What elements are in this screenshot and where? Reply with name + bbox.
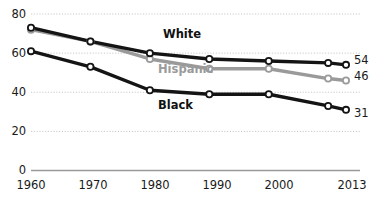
end-value-white: 54 bbox=[354, 53, 369, 67]
x-tick-label-1990: 1990 bbox=[195, 178, 239, 192]
data-point-hispanic-2000 bbox=[266, 66, 272, 72]
x-tick-label-1970: 1970 bbox=[71, 178, 115, 192]
data-point-black-2000 bbox=[266, 91, 272, 97]
x-tick-label-1960: 1960 bbox=[9, 178, 53, 192]
data-point-white-2010 bbox=[325, 60, 331, 66]
series-label-hispanic: Hispanic bbox=[158, 62, 213, 76]
y-tick-label-40: 40 bbox=[2, 85, 26, 99]
x-tick-label-2013: 2013 bbox=[330, 178, 374, 192]
data-point-black-1960 bbox=[28, 48, 34, 54]
data-point-white-1960 bbox=[28, 25, 34, 31]
end-value-hispanic: 46 bbox=[354, 69, 369, 83]
data-point-white-1970 bbox=[87, 38, 93, 44]
line-chart: 80 60 40 20 0 1960 1970 1980 1990 2000 2… bbox=[0, 0, 374, 197]
y-tick-label-20: 20 bbox=[2, 124, 26, 138]
data-point-hispanic-2013 bbox=[343, 77, 349, 83]
x-tick-label-1980: 1980 bbox=[133, 178, 177, 192]
data-point-black-2013 bbox=[343, 107, 349, 113]
y-tick-label-80: 80 bbox=[2, 7, 26, 21]
data-point-black-1970 bbox=[87, 64, 93, 70]
data-point-white-2013 bbox=[343, 62, 349, 68]
y-tick-label-60: 60 bbox=[2, 46, 26, 60]
series-label-black: Black bbox=[158, 98, 193, 112]
data-point-hispanic-2010 bbox=[325, 75, 331, 81]
end-value-black: 31 bbox=[354, 106, 369, 120]
data-point-black-1980 bbox=[147, 87, 153, 93]
y-tick-label-0: 0 bbox=[2, 163, 26, 177]
series-label-white: White bbox=[163, 27, 201, 41]
data-point-white-2000 bbox=[266, 58, 272, 64]
data-point-black-1990 bbox=[206, 91, 212, 97]
data-point-black-2010 bbox=[325, 103, 331, 109]
data-point-white-1980 bbox=[147, 50, 153, 56]
x-tick-label-2000: 2000 bbox=[257, 178, 301, 192]
